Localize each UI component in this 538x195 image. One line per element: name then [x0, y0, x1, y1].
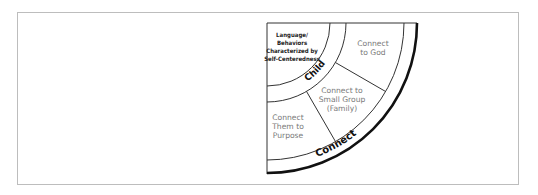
- svg-text:Small Group: Small Group: [319, 95, 366, 104]
- connect-band-label: Connect: [314, 127, 359, 159]
- svg-text:Connect: Connect: [357, 39, 388, 48]
- connect-quadrant-diagram: Language/ Behaviors Characterized by Sel…: [0, 0, 538, 195]
- svg-text:Connect: Connect: [272, 113, 303, 122]
- child-band-label: Child: [303, 59, 328, 84]
- svg-text:Self-Centeredness: Self-Centeredness: [264, 55, 320, 62]
- region-small-group: Connect to Small Group (Family): [319, 86, 366, 113]
- svg-text:Them to: Them to: [271, 122, 304, 131]
- svg-text:Purpose: Purpose: [273, 131, 304, 140]
- svg-text:Language/: Language/: [276, 31, 308, 39]
- svg-text:Characterized by: Characterized by: [266, 47, 318, 55]
- region-purpose: Connect Them to Purpose: [271, 113, 304, 140]
- svg-text:to God: to God: [360, 48, 386, 57]
- svg-text:(Family): (Family): [327, 104, 357, 113]
- svg-text:Behaviors: Behaviors: [277, 39, 307, 46]
- svg-text:Connect to: Connect to: [321, 86, 363, 95]
- region-god: Connect to God: [357, 39, 388, 57]
- core-description: Language/ Behaviors Characterized by Sel…: [264, 31, 320, 62]
